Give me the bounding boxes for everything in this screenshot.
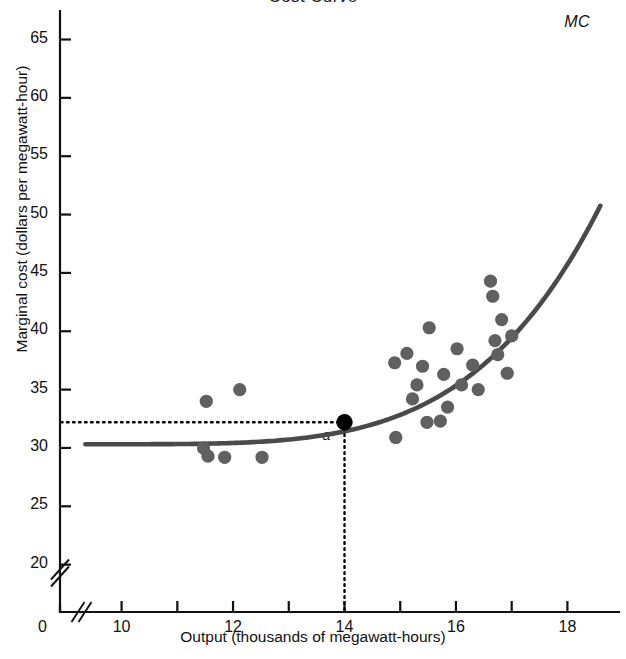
point-a-marker [336, 414, 352, 430]
scatter-point [406, 392, 419, 405]
scatter-point [400, 347, 413, 360]
y-tick-label: 25 [8, 495, 48, 513]
y-tick-label: 40 [8, 320, 48, 338]
y-tick-label: 30 [8, 437, 48, 455]
scatter-point [200, 395, 213, 408]
scatter-point [416, 360, 429, 373]
y-tick-label: 45 [8, 262, 48, 280]
scatter-point [488, 334, 501, 347]
x-tick-label: 10 [102, 618, 142, 636]
scatter-point [455, 378, 468, 391]
y-tick-label: 35 [8, 379, 48, 397]
x-tick-label: 16 [436, 618, 476, 636]
scatter-point [505, 329, 518, 342]
scatter-point [255, 451, 268, 464]
scatter-point [495, 313, 508, 326]
scatter-point [472, 383, 485, 396]
scatter-point [218, 451, 231, 464]
scatter-point [423, 321, 436, 334]
plot-area [0, 0, 626, 659]
scatter-point [466, 359, 479, 372]
scatter-point [501, 367, 514, 380]
scatter-point [233, 383, 246, 396]
mc-curve [85, 206, 600, 444]
y-tick-label: 50 [8, 204, 48, 222]
scatter-point [486, 290, 499, 303]
x-tick-label: 14 [325, 618, 365, 636]
scatter-point [420, 416, 433, 429]
scatter-point [434, 415, 447, 428]
scatter-point [389, 431, 402, 444]
y-tick-label: 65 [8, 29, 48, 47]
scatter-point [491, 348, 504, 361]
scatter-point [450, 342, 463, 355]
scatter-point [437, 368, 450, 381]
x-tick-label: 12 [213, 618, 253, 636]
x-tick-label: 18 [547, 618, 587, 636]
scatter-point [201, 450, 214, 463]
scatter-point [410, 378, 423, 391]
scatter-point [388, 356, 401, 369]
chart-canvas: Cost Curve Marginal cost (dollars per me… [0, 0, 626, 659]
scatter-point [484, 274, 497, 287]
y-tick-label: 60 [8, 87, 48, 105]
y-tick-label: 55 [8, 145, 48, 163]
y-tick-label: 20 [8, 554, 48, 572]
scatter-point [441, 401, 454, 414]
